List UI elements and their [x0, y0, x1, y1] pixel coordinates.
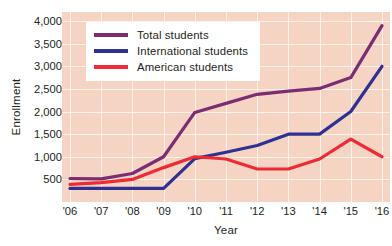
y-axis-tick: 500 — [43, 173, 62, 185]
x-axis-tick: '08 — [125, 205, 140, 217]
legend-label: International students — [137, 45, 248, 57]
x-axis-label: Year — [62, 224, 390, 236]
x-axis-tick: '14 — [312, 205, 327, 217]
y-axis-tick-labels: 5001,0001,5002,0002,5003,0003,5004,000 — [26, 12, 62, 202]
legend-color-swatch — [94, 49, 128, 52]
legend-label: Total students — [137, 29, 209, 41]
legend-label: American students — [137, 61, 233, 73]
y-axis-tick: 3,000 — [34, 60, 62, 72]
plot-area: Total studentsInternational studentsAmer… — [62, 12, 390, 202]
x-axis-tick: '09 — [156, 205, 171, 217]
x-axis-tick: '06 — [63, 205, 78, 217]
x-axis-tick: '15 — [344, 205, 359, 217]
y-axis-tick: 4,000 — [34, 15, 62, 27]
legend-item[interactable]: American students — [94, 59, 248, 75]
legend-item[interactable]: Total students — [94, 27, 248, 43]
x-axis-tick: '10 — [188, 205, 203, 217]
x-axis-tick: '16 — [375, 205, 390, 217]
y-axis-tick: 3,500 — [34, 38, 62, 50]
enrollment-line-chart: Enrollment 5001,0001,5002,0002,5003,0003… — [0, 0, 392, 246]
y-axis-tick: 1,000 — [34, 151, 62, 163]
y-axis-label: Enrollment — [10, 79, 22, 136]
x-axis-tick: '13 — [281, 205, 296, 217]
y-axis-tick: 2,500 — [34, 83, 62, 95]
legend-color-swatch — [94, 65, 128, 68]
x-axis-tick-labels: '06'07'08'09'10'11'12'13'14'15'16 — [62, 205, 390, 221]
legend-item[interactable]: International students — [94, 43, 248, 59]
x-axis-tick: '07 — [94, 205, 109, 217]
x-axis-tick: '11 — [219, 205, 233, 217]
legend-color-swatch — [94, 33, 128, 36]
x-axis-tick: '12 — [250, 205, 265, 217]
y-axis-tick: 2,000 — [34, 106, 62, 118]
chart-legend: Total studentsInternational studentsAmer… — [86, 22, 260, 81]
y-axis-tick: 1,500 — [34, 128, 62, 140]
